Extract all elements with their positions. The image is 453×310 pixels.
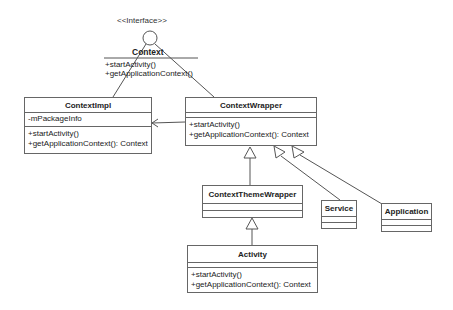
generalization-triangle-icon <box>274 146 285 158</box>
interface-method: +getApplicationContext() <box>105 69 193 78</box>
class-method: +startActivity() <box>28 129 151 139</box>
class-methods <box>322 223 356 228</box>
class-method: +getApplicationContext(): Context <box>28 139 151 149</box>
interface-circle-icon <box>143 31 157 45</box>
class-methods <box>203 211 302 217</box>
class-name: Application <box>382 204 431 220</box>
class-name: Activity <box>188 246 317 263</box>
interface-name: Context <box>132 47 164 57</box>
class-contextimpl[interactable]: ContextImpl -mPackageInfo +startActivity… <box>24 97 152 154</box>
class-attribute: -mPackageInfo <box>28 113 151 125</box>
class-methods: +startActivity() +getApplicationContext(… <box>188 268 317 289</box>
class-service[interactable]: Service <box>321 200 357 229</box>
association-line <box>152 122 185 123</box>
class-application[interactable]: Application <box>381 203 432 232</box>
class-contextwrapper[interactable]: ContextWrapper +startActivity() +getAppl… <box>185 97 317 146</box>
generalization-triangle-icon <box>246 218 258 229</box>
interface-method: +startActivity() <box>105 60 193 69</box>
class-method: +getApplicationContext(): Context <box>191 280 317 290</box>
class-activity[interactable]: Activity +startActivity() +getApplicatio… <box>187 245 318 293</box>
class-methods <box>382 226 431 231</box>
class-methods: +startActivity() +getApplicationContext(… <box>186 118 316 139</box>
class-method: +startActivity() <box>189 120 316 130</box>
interface-methods: +startActivity() +getApplicationContext(… <box>105 60 193 78</box>
class-attributes <box>203 204 302 211</box>
class-method: +getApplicationContext(): Context <box>189 130 316 140</box>
class-name: Service <box>322 201 356 217</box>
class-name: ContextThemeWrapper <box>203 186 302 204</box>
class-method: +startActivity() <box>191 270 317 280</box>
class-name: ContextImpl <box>25 98 151 113</box>
class-attributes: -mPackageInfo <box>25 113 151 127</box>
class-contextthemewrapper[interactable]: ContextThemeWrapper <box>202 185 303 218</box>
interface-stereotype: <<Interface>> <box>117 16 167 25</box>
class-name: ContextWrapper <box>186 98 316 113</box>
class-methods: +startActivity() +getApplicationContext(… <box>25 127 151 148</box>
generalization-triangle-icon <box>244 147 256 158</box>
